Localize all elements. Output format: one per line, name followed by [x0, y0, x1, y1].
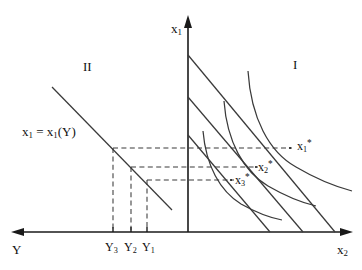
tick-label-Y3-sub: 3 [114, 246, 118, 255]
x1-of-Y-label: x1 = x1(Y) [22, 125, 76, 140]
x2-axis-label: x2 [337, 243, 348, 258]
x2-axis-label-sub: 2 [344, 248, 348, 258]
tick-label-Y3-main: Y [105, 240, 114, 254]
x1-axis-label-sub: 1 [178, 27, 182, 37]
point-label-x3-sup: * [245, 172, 250, 182]
Y-axis-label-main: Y [12, 242, 21, 257]
point-label-x3-star: x3* [235, 173, 250, 188]
tick-label-Y2: Y2 [124, 241, 137, 255]
x1-of-Y-label-suffix: (Y) [58, 124, 76, 139]
point-label-x2-star: x2* [258, 160, 273, 175]
x1-axis-arrowhead [184, 15, 192, 28]
Y-axis-label: Y [12, 243, 21, 256]
point-label-x1-star: x1* [297, 139, 312, 154]
budget-line-3 [188, 135, 270, 232]
economics-diagram: x1 x2 Y I II x1 = x1(Y) Y3 Y2 Y1 x1* x2*… [0, 0, 362, 270]
tick-label-Y1-sub: 1 [151, 246, 155, 255]
tangency-point-x3 [230, 179, 232, 181]
tick-label-Y1: Y1 [142, 241, 155, 255]
region-two-label: II [83, 60, 92, 73]
x1-of-Y-line [52, 87, 172, 210]
x1-of-Y-label-equals: = x [33, 124, 53, 139]
indifference-curves-group [203, 71, 352, 220]
tick-label-Y3: Y3 [105, 241, 118, 255]
Y-axis-arrowhead [11, 228, 24, 236]
x2-axis-arrowhead [340, 228, 353, 236]
tick-label-Y2-sub: 2 [133, 246, 137, 255]
tangency-point-x2 [255, 166, 257, 168]
tangency-point-x1 [289, 147, 291, 149]
tick-label-Y1-main: Y [142, 240, 151, 254]
point-label-x1-sup: * [307, 138, 312, 148]
tick-label-Y2-main: Y [124, 240, 133, 254]
point-label-x2-sup: * [268, 159, 273, 169]
x1-axis-label: x1 [171, 22, 182, 37]
region-one-label: I [293, 58, 297, 71]
demand-line-group [52, 87, 172, 210]
